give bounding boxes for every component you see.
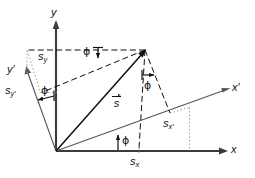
component-label-sy-prime: sy′ — [5, 85, 16, 97]
vector-decomposition-figure: y x y′ x′ s sy sy′ sx sx′ ϕ ϕ ϕ ϕ — [0, 0, 255, 178]
vector-arrow-overbar — [112, 93, 121, 98]
vector-label-s: s — [112, 93, 121, 109]
axis-x-prime — [56, 88, 231, 151]
figure-canvas — [0, 0, 255, 178]
axis-x — [56, 148, 228, 155]
vector-s-arrow — [56, 49, 147, 151]
component-label-sy-sub: y — [44, 55, 48, 64]
axis-y-prime — [25, 66, 57, 151]
angle-mark-phi-top — [93, 48, 103, 59]
axis-label-x: x — [231, 144, 237, 155]
component-label-sy: sy — [38, 51, 47, 63]
component-label-sx: sx — [130, 156, 139, 168]
component-label-sx-prime: sx′ — [163, 118, 174, 130]
component-label-sy-prime-sub: y′ — [11, 89, 16, 98]
component-label-sx-prime-sub: x′ — [169, 122, 174, 131]
angle-label-phi-top: ϕ — [83, 46, 90, 57]
axis-label-y: y — [51, 7, 57, 18]
angle-label-phi-bottom: ϕ — [122, 135, 129, 146]
axis-label-x-prime: x′ — [232, 82, 240, 93]
angle-label-phi-right: ϕ — [144, 80, 151, 91]
projection-line-sx — [139, 50, 145, 149]
angle-label-phi-left: ϕ — [41, 85, 48, 96]
axis-label-y-prime: y′ — [7, 64, 15, 75]
component-label-sx-sub: x — [136, 160, 140, 169]
vector-label-s-text: s — [112, 98, 121, 109]
